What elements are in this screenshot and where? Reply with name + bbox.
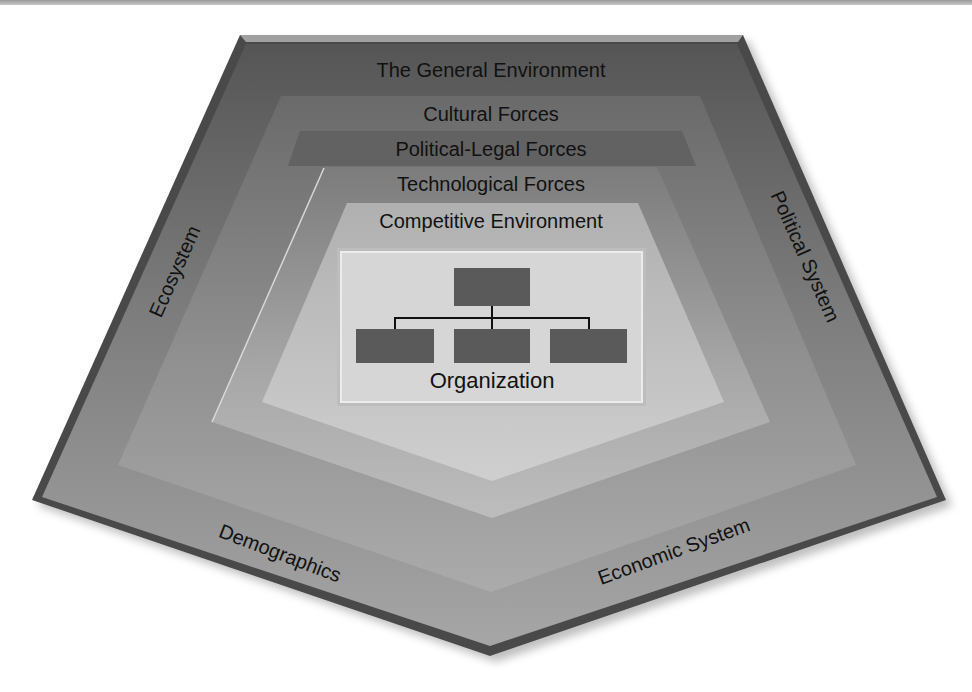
label-general-environment: The General Environment [376, 59, 605, 82]
label-cultural-forces: Cultural Forces [423, 103, 559, 126]
outer-rim-highlight [240, 35, 743, 42]
label-organization: Organization [430, 368, 555, 394]
label-political-legal-forces: Political-Legal Forces [395, 138, 586, 161]
label-technological-forces: Technological Forces [397, 173, 585, 196]
label-competitive-environment: Competitive Environment [379, 210, 602, 233]
